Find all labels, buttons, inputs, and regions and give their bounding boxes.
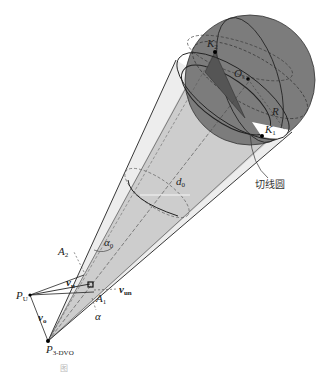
label-a2: A2 bbox=[58, 246, 68, 259]
label-tangent-circle: 切线圆 bbox=[255, 180, 285, 190]
label-k1: K1 bbox=[265, 124, 276, 137]
label-pu: PU bbox=[16, 290, 28, 303]
label-alpha0: α0 bbox=[104, 237, 113, 250]
label-d0: d0 bbox=[176, 176, 185, 189]
pu-dot bbox=[28, 293, 31, 296]
label-alpha: α bbox=[95, 311, 101, 322]
label-k2: K2 bbox=[207, 38, 218, 51]
label-vu: vu bbox=[66, 277, 75, 290]
label-r: R bbox=[272, 106, 279, 117]
label-a1: A1 bbox=[96, 293, 106, 306]
label-vun: vun bbox=[119, 284, 132, 297]
figure-caption: 图 bbox=[60, 362, 68, 372]
label-os: Os bbox=[234, 68, 245, 81]
label-p3dvo: P3-DVO bbox=[46, 344, 74, 357]
label-vo: vo bbox=[38, 312, 46, 325]
k1-dot bbox=[260, 134, 264, 138]
